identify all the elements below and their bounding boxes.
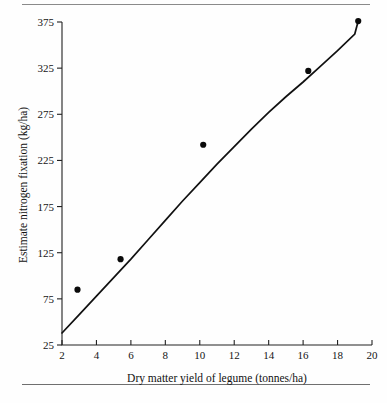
data-points	[74, 18, 361, 293]
data-point	[305, 68, 311, 74]
y-axis-ticks: 2575125175225275325375	[38, 16, 63, 351]
y-axis-label: Estimate nitrogen fixation (kg/ha)	[17, 107, 30, 263]
y-tick-label: 275	[38, 108, 55, 120]
x-tick-label: 18	[332, 349, 344, 361]
x-tick-label: 16	[298, 349, 310, 361]
data-point	[355, 18, 361, 24]
y-tick-label: 225	[38, 154, 55, 166]
x-tick-label: 10	[194, 349, 206, 361]
fitted-curve	[62, 21, 358, 333]
y-tick-label: 75	[43, 293, 55, 305]
y-tick-label: 375	[38, 16, 55, 28]
x-axis-ticks: 2468101214161820	[59, 340, 378, 361]
x-tick-label: 20	[367, 349, 379, 361]
data-point	[117, 256, 123, 262]
x-tick-label: 2	[59, 349, 65, 361]
figure-page: 2575125175225275325375 2468101214161820 …	[0, 0, 387, 403]
x-tick-label: 8	[163, 349, 169, 361]
x-tick-label: 12	[229, 349, 240, 361]
x-tick-label: 14	[263, 349, 275, 361]
x-tick-label: 6	[128, 349, 134, 361]
x-axis-label: Dry matter yield of legume (tonnes/ha)	[127, 372, 307, 385]
y-tick-label: 325	[38, 62, 55, 74]
y-tick-label: 25	[43, 339, 55, 351]
data-point	[200, 142, 206, 148]
data-point	[74, 287, 80, 293]
scatter-chart: 2575125175225275325375 2468101214161820 …	[0, 0, 387, 403]
y-tick-label: 125	[38, 247, 55, 259]
axis-lines	[62, 22, 372, 345]
y-tick-label: 175	[38, 201, 55, 213]
x-tick-label: 4	[94, 349, 100, 361]
